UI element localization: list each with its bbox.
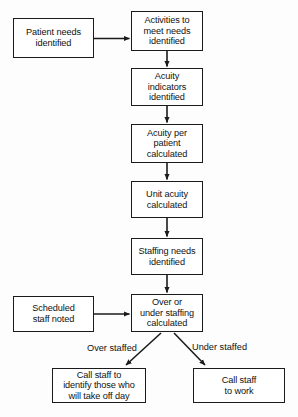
flowchart-canvas: Patient needs identified Activities to m…	[0, 0, 298, 417]
node-scheduled-staff-noted[interactable]: Scheduled staff noted	[13, 296, 94, 332]
node-call-staff-to-identify-those-who-will-take-off-day[interactable]: Call staff to identify those who will ta…	[52, 368, 146, 403]
edge-label-under-staffed: Under staffed	[192, 342, 247, 353]
node-patient-needs-identified[interactable]: Patient needs identified	[13, 18, 94, 58]
node-acuity-per-patient-calculated[interactable]: Acuity per patient calculated	[131, 124, 203, 163]
node-activities-to-meet-needs-identified[interactable]: Activities to meet needs identified	[131, 11, 203, 51]
node-acuity-indicators-identified[interactable]: Acuity indicators identified	[131, 68, 203, 106]
node-over-or-under-staffing-calculated[interactable]: Over or under staffing calculated	[131, 294, 203, 332]
node-staffing-needs-identified[interactable]: Staffing needs identified	[131, 238, 203, 275]
edge-label-over-staffed: Over staffed	[87, 343, 137, 354]
node-call-staff-to-work[interactable]: Call staff to work	[193, 368, 285, 403]
node-unit-acuity-calculated[interactable]: Unit acuity calculated	[131, 181, 203, 218]
